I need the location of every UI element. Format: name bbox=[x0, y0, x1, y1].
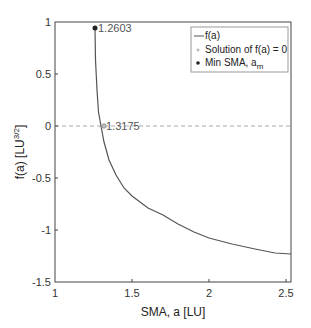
svg-text:2: 2 bbox=[206, 287, 212, 299]
y-axis-label: f(a) [LU3/2] bbox=[12, 125, 27, 179]
min-label: 1.2603 bbox=[98, 22, 132, 34]
svg-text:-0.5: -0.5 bbox=[32, 172, 51, 184]
svg-text:2.5: 2.5 bbox=[278, 287, 293, 299]
chart: 1 1.5 2 2.5 1 0.5 0 -0.5 -1 -1.5 1.3175 … bbox=[0, 0, 311, 328]
svg-text:0: 0 bbox=[45, 120, 51, 132]
min-marker bbox=[93, 26, 98, 31]
svg-text:-1: -1 bbox=[41, 224, 51, 236]
legend: f(a) Solution of f(a) = 0 Min SMA, am bbox=[191, 27, 288, 72]
svg-text:f(a): f(a) bbox=[205, 30, 220, 41]
svg-text:-1.5: -1.5 bbox=[32, 276, 51, 288]
svg-text:Solution of f(a) = 0: Solution of f(a) = 0 bbox=[205, 44, 287, 55]
svg-text:1: 1 bbox=[52, 287, 58, 299]
solution-label: 1.3175 bbox=[106, 120, 140, 132]
y-ticks: 1 0.5 0 -0.5 -1 -1.5 bbox=[32, 16, 58, 288]
svg-text:0.5: 0.5 bbox=[36, 68, 51, 80]
svg-text:1: 1 bbox=[45, 16, 51, 28]
x-axis-label: SMA, a [LU] bbox=[141, 305, 206, 319]
svg-text:1.5: 1.5 bbox=[124, 287, 139, 299]
